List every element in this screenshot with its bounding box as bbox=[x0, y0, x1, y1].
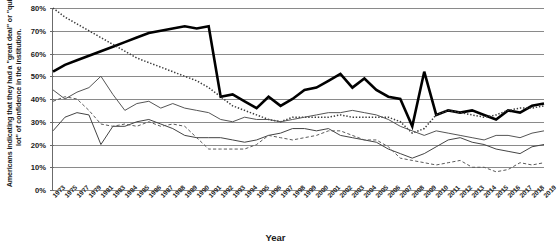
y-axis-tick-label: 10% bbox=[10, 163, 46, 172]
series-line bbox=[53, 76, 544, 140]
y-axis-tick-label: 30% bbox=[10, 118, 46, 127]
x-axis-tick-label: 2019 bbox=[542, 184, 557, 199]
series-line bbox=[53, 113, 544, 158]
y-axis-tick-label: 0% bbox=[10, 186, 46, 195]
y-axis-tick-label: 20% bbox=[10, 141, 46, 150]
y-axis-tick-label: 50% bbox=[10, 72, 46, 81]
x-axis-title: Year bbox=[0, 232, 551, 243]
y-axis-tick-label: 40% bbox=[10, 95, 46, 104]
series-line bbox=[53, 97, 544, 172]
x-axis-tick-labels: 1973197519771979198119831984198519861987… bbox=[0, 0, 551, 60]
